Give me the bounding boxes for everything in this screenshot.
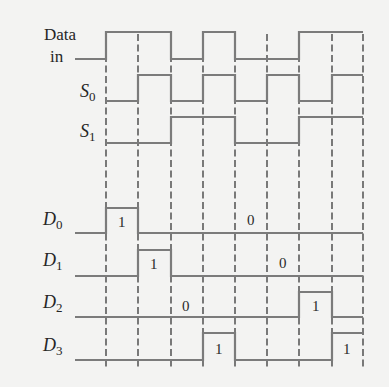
d2-low-annotation: 0	[182, 298, 190, 314]
d3-high-annotation-2: 1	[343, 341, 351, 357]
d3-high-annotation-1: 1	[215, 341, 223, 357]
d3-label: D3	[42, 335, 63, 358]
signal-data-in: Data in	[44, 25, 363, 66]
d0-high-annotation: 1	[118, 214, 126, 230]
d2-waveform	[75, 292, 363, 317]
d1-waveform	[75, 250, 363, 276]
s0-waveform	[106, 75, 363, 101]
s1-waveform	[106, 117, 363, 143]
d0-label: D0	[42, 209, 63, 232]
s0-label: S0	[80, 81, 96, 104]
timing-diagram: Data in S0 S1 D0 1 0 D1 1 0 D2 0 1 D3 1 …	[0, 0, 389, 387]
signal-s0: S0	[80, 75, 363, 104]
d2-high-annotation: 1	[312, 298, 320, 314]
s1-label: S1	[80, 121, 96, 144]
data-in-waveform	[75, 32, 363, 59]
d1-high-annotation: 1	[150, 256, 158, 272]
d1-label: D1	[42, 250, 63, 273]
d1-low-annotation: 0	[279, 255, 287, 271]
signal-d1: D1 1 0	[42, 250, 363, 276]
signal-d3: D3 1 1	[42, 333, 363, 360]
d2-label: D2	[42, 292, 63, 315]
signal-s1: S1	[80, 117, 363, 144]
data-in-label-line2: in	[50, 47, 64, 66]
data-in-label-line1: Data	[44, 25, 77, 44]
d0-low-annotation: 0	[247, 212, 255, 228]
